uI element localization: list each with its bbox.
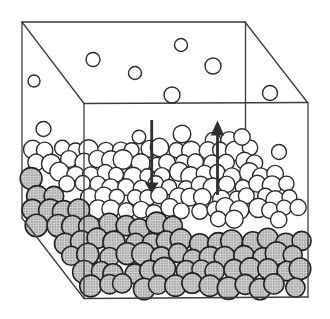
liquid-molecule bbox=[113, 274, 132, 293]
vapor-molecule bbox=[86, 53, 100, 67]
liquid-molecule bbox=[286, 278, 305, 297]
vapor-molecule bbox=[234, 129, 250, 145]
vapor-molecule bbox=[272, 145, 287, 160]
liquid-molecule bbox=[264, 274, 284, 294]
vapor-molecule bbox=[263, 86, 278, 101]
surface-molecule bbox=[113, 150, 133, 170]
surface-molecule bbox=[279, 176, 294, 191]
vapor-molecule bbox=[132, 130, 146, 144]
surface-molecule bbox=[290, 199, 306, 215]
surface-molecule bbox=[192, 204, 208, 220]
surface-molecule bbox=[271, 212, 287, 228]
vapor-molecule bbox=[164, 87, 180, 103]
diagram-page bbox=[0, 0, 330, 319]
liquid-vapor-equilibrium-diagram bbox=[0, 0, 330, 319]
surface-molecule bbox=[211, 211, 227, 227]
liquid-molecule bbox=[80, 275, 102, 297]
vapor-molecule bbox=[36, 122, 51, 137]
vapor-molecule bbox=[28, 75, 40, 87]
vapor-molecule bbox=[173, 125, 191, 143]
vapor-molecule bbox=[205, 58, 221, 74]
vapor-molecule bbox=[175, 39, 188, 52]
vapor-molecule bbox=[129, 67, 142, 80]
surface-molecule bbox=[225, 210, 243, 228]
